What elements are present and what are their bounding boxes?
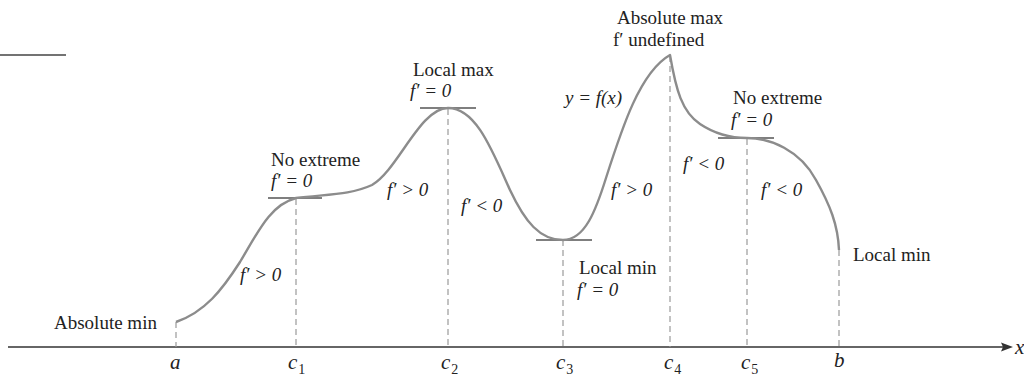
annotation-c2-title: Local max xyxy=(413,60,494,79)
tick-c3-base: c xyxy=(556,350,565,374)
tick-c1-base: c xyxy=(288,350,297,374)
tangent-lines xyxy=(268,108,774,240)
annotation-c1-title: No extreme xyxy=(271,150,360,169)
tick-c1-sub: 1 xyxy=(298,362,305,377)
tick-c2-base: c xyxy=(441,350,450,374)
tick-c5-base: c xyxy=(741,350,750,374)
annotation-c5-derivative: f′ = 0 xyxy=(731,110,772,129)
tick-c1: c1 xyxy=(288,352,305,377)
x-axis-label: x xyxy=(1015,337,1024,358)
annotation-c3-derivative: f′ = 0 xyxy=(577,280,618,299)
tick-c2-sub: 2 xyxy=(451,362,458,377)
slope-c2-c3: f′ < 0 xyxy=(461,196,502,215)
slope-c1-c2: f′ > 0 xyxy=(387,180,428,199)
tick-a-base: a xyxy=(170,350,181,374)
slope-c5-b: f′ < 0 xyxy=(761,180,802,199)
tick-c3-sub: 3 xyxy=(566,362,573,377)
annotation-b: Local min xyxy=(853,245,931,264)
tick-c5-sub: 5 xyxy=(751,362,758,377)
slope-a-c1: f′ > 0 xyxy=(240,265,281,284)
tick-c4-sub: 4 xyxy=(674,362,681,377)
tick-b-base: b xyxy=(834,348,845,372)
annotation-c1-derivative: f′ = 0 xyxy=(271,171,312,190)
tick-a: a xyxy=(170,352,181,373)
annotation-c3-title: Local min xyxy=(579,258,657,277)
tick-c4-base: c xyxy=(664,350,673,374)
tick-c2: c2 xyxy=(441,352,458,377)
annotation-c4-title: Absolute max xyxy=(617,8,723,27)
curve-label: y = f(x) xyxy=(565,88,622,107)
tick-c5: c5 xyxy=(741,352,758,377)
tick-c4: c4 xyxy=(664,352,681,377)
tick-b: b xyxy=(834,350,845,371)
annotation-c5-title: No extreme xyxy=(733,88,822,107)
tick-c3: c3 xyxy=(556,352,573,377)
slope-c4-c5: f′ < 0 xyxy=(683,154,724,173)
slope-c3-c4: f′ > 0 xyxy=(611,180,652,199)
annotation-a: Absolute min xyxy=(54,313,157,332)
annotation-c4-derivative: f′ undefined xyxy=(613,30,704,49)
annotation-c2-derivative: f′ = 0 xyxy=(410,81,451,100)
